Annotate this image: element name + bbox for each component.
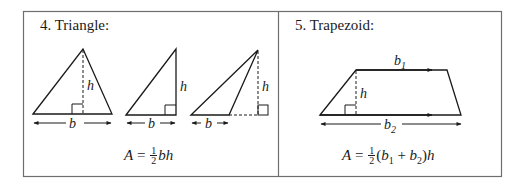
triangle-obtuse [191,50,268,123]
trapezoid-bottom-base-label: b2 [384,117,396,135]
triangle-obtuse-base-label: b [205,116,212,132]
trapezoid-top-base-label: b1 [394,53,406,71]
triangle-right-base-label: b [148,116,155,132]
triangle-acute [33,49,112,123]
triangle-acute-height-label: h [87,78,94,94]
trapezoid [320,70,461,124]
triangle-right-height-label: h [180,79,187,95]
trapezoid-height-label: h [360,86,367,102]
triangle-acute-base-label: b [69,116,76,132]
trapezoid-title: 5. Trapezoid: [295,17,374,34]
triangle-right [126,49,176,123]
triangle-area-formula: A = 12bh [124,147,173,166]
triangle-title: 4. Triangle: [40,17,109,34]
triangle-obtuse-height-label: h [262,79,269,95]
trapezoid-area-formula: A = 12(b1 + b2)h [342,147,435,166]
